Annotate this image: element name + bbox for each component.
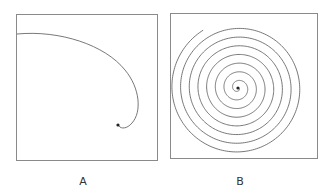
panel-a-center-dot (116, 123, 119, 126)
panel-b-spiral (172, 28, 300, 152)
panel-a-curve (17, 33, 138, 128)
spiral-drawings (0, 0, 326, 192)
panel-b-label: B (230, 175, 250, 188)
panel-b-center-dot (236, 86, 239, 89)
panel-a-label: A (73, 175, 93, 188)
